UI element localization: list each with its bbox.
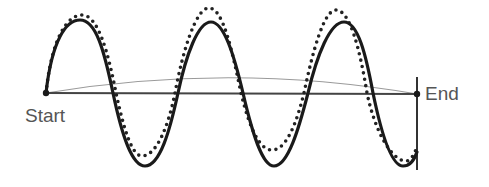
baseline-line <box>46 93 417 94</box>
wave-diagram <box>0 0 489 187</box>
thin-arc-path <box>46 78 417 94</box>
end-point-marker <box>414 91 420 97</box>
start-point-marker <box>43 90 49 96</box>
start-label: Start <box>25 106 65 125</box>
end-label: End <box>425 84 459 103</box>
